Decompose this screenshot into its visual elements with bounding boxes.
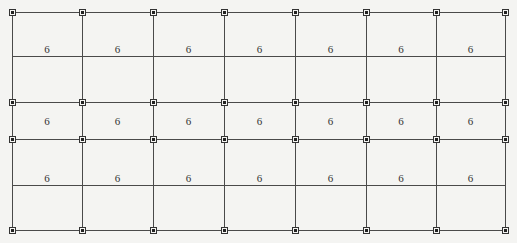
column-node-icon [363,99,370,106]
column-node-icon [433,9,440,16]
bay-dimension-label: 6 [321,115,341,127]
bay-dimension-label: 6 [461,172,481,184]
column-node-icon [221,99,228,106]
bay-dimension-label: 6 [179,43,199,55]
column-node-icon [79,9,86,16]
bay-dimension-label: 6 [179,115,199,127]
grid-line-vertical [224,12,225,230]
column-node-icon [363,9,370,16]
column-node-icon [502,99,509,106]
grid-line-vertical [436,12,437,230]
column-node-icon [363,227,370,234]
grid-plan: 666666666666666666666 [0,0,517,243]
column-node-icon [150,9,157,16]
bay-dimension-label: 6 [321,172,341,184]
bay-dimension-label: 6 [179,172,199,184]
bay-dimension-label: 6 [37,172,57,184]
bay-dimension-label: 6 [108,115,128,127]
column-node-icon [292,9,299,16]
column-node-icon [292,227,299,234]
grid-line-vertical [153,12,154,230]
grid-line-vertical [82,12,83,230]
column-node-icon [292,136,299,143]
bay-dimension-label: 6 [108,172,128,184]
grid-line-vertical [505,12,506,230]
bay-dimension-label: 6 [391,43,411,55]
column-node-icon [433,227,440,234]
column-node-icon [150,227,157,234]
column-node-icon [363,136,370,143]
column-node-icon [221,227,228,234]
grid-line-horizontal [12,56,505,57]
column-node-icon [79,99,86,106]
column-node-icon [9,227,16,234]
grid-line-horizontal [12,185,505,186]
grid-line-vertical [12,12,13,230]
column-node-icon [79,136,86,143]
column-node-icon [79,227,86,234]
column-node-icon [221,136,228,143]
column-node-icon [433,136,440,143]
column-node-icon [502,136,509,143]
column-node-icon [292,99,299,106]
grid-line-vertical [366,12,367,230]
bay-dimension-label: 6 [321,43,341,55]
column-node-icon [502,227,509,234]
column-node-icon [221,9,228,16]
grid-line-vertical [295,12,296,230]
column-node-icon [502,9,509,16]
column-node-icon [9,136,16,143]
bay-dimension-label: 6 [461,115,481,127]
bay-dimension-label: 6 [37,115,57,127]
column-node-icon [9,99,16,106]
bay-dimension-label: 6 [250,172,270,184]
bay-dimension-label: 6 [108,43,128,55]
bay-dimension-label: 6 [250,115,270,127]
bay-dimension-label: 6 [461,43,481,55]
bay-dimension-label: 6 [391,115,411,127]
bay-dimension-label: 6 [391,172,411,184]
column-node-icon [9,9,16,16]
bay-dimension-label: 6 [250,43,270,55]
column-node-icon [150,136,157,143]
column-node-icon [150,99,157,106]
bay-dimension-label: 6 [37,43,57,55]
column-node-icon [433,99,440,106]
